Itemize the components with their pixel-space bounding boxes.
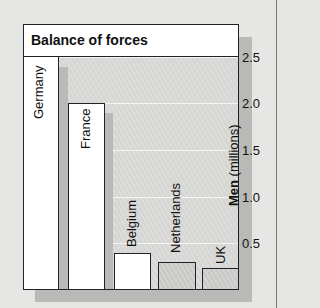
bar-label-germany: Germany xyxy=(31,66,46,119)
ytick-1-0: 1.0 xyxy=(242,190,260,205)
bar-label-belgium: Belgium xyxy=(124,200,139,247)
bar-shadow-germany xyxy=(59,67,68,289)
ytick-2-0: 2.0 xyxy=(242,96,260,111)
ytick-0-5: 0.5 xyxy=(242,236,260,251)
page-rule xyxy=(276,0,277,308)
chart-title: Balance of forces xyxy=(31,32,148,48)
bar-label-france: France xyxy=(78,109,93,149)
chart-frame: Balance of forces Germany France Belgium… xyxy=(23,24,239,290)
title-bar: Balance of forces xyxy=(24,25,238,57)
y-axis-label-bold: Men xyxy=(226,180,241,206)
ytick-1-5: 1.5 xyxy=(242,143,260,158)
y-axis-label-unit: (millions) xyxy=(226,124,241,176)
ytick-2-5: 2.5 xyxy=(242,50,260,65)
bar-netherlands xyxy=(158,262,196,289)
bar-belgium xyxy=(114,253,151,289)
bar-shadow-france xyxy=(105,113,113,289)
bar-label-uk: UK xyxy=(213,246,228,264)
plot-area: Germany France Belgium Netherlands UK xyxy=(24,57,238,289)
bar-uk xyxy=(202,268,239,289)
bar-label-netherlands: Netherlands xyxy=(168,183,183,253)
y-axis-label: Men (millions) xyxy=(226,124,241,206)
